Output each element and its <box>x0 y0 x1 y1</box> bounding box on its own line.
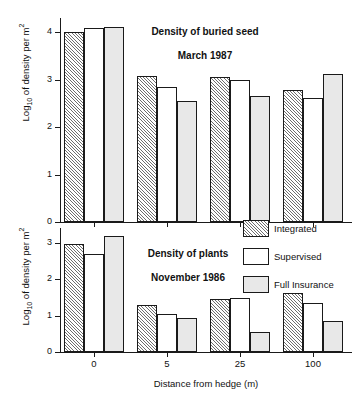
x-tick-label: 5 <box>147 359 187 369</box>
y-axis-plants <box>60 228 61 352</box>
y-axis-label-buried-seed: Log10 of density per m2 <box>17 3 34 143</box>
bar-supervised-100m <box>303 303 323 352</box>
panel-buried-seed: Density of buried seed March 1987 01234 … <box>0 0 362 230</box>
bar-supervised-100m <box>303 98 323 222</box>
bar-supervised-5m <box>157 87 177 222</box>
legend-swatch-full-insurance <box>243 276 269 293</box>
x-tick-label: 25 <box>220 359 260 369</box>
legend-swatch-supervised <box>243 248 269 265</box>
x-tick <box>313 352 314 357</box>
legend-item-supervised: Supervised <box>243 247 361 269</box>
bar-supervised-0m <box>84 254 104 352</box>
x-tick <box>240 352 241 357</box>
bar-integrated-0m <box>64 244 84 352</box>
legend-label-full-insurance: Full Insurance <box>274 279 334 290</box>
y-tick <box>55 243 60 244</box>
y-tick <box>55 279 60 280</box>
legend-swatch-integrated <box>243 220 269 237</box>
bar-full-insurance-0m <box>104 236 124 352</box>
bar-full-insurance-100m <box>323 321 343 352</box>
legend-item-integrated: Integrated <box>243 219 361 241</box>
y-tick-label: 1 <box>30 170 52 179</box>
y-axis-label-plants: Log10 of density per m2 <box>17 207 34 347</box>
plot-area-buried-seed: 01234 0525100 <box>60 18 352 222</box>
bar-full-insurance-5m <box>177 318 197 352</box>
y-tick <box>55 32 60 33</box>
legend-item-full-insurance: Full Insurance <box>243 275 361 297</box>
x-tick-label: 0 <box>74 359 114 369</box>
figure-two-panel-bar-charts: Density of buried seed March 1987 01234 … <box>0 0 362 398</box>
legend-label-integrated: Integrated <box>274 223 317 234</box>
bar-integrated-25m <box>210 299 230 352</box>
x-axis-plants <box>60 352 352 353</box>
bar-supervised-5m <box>157 314 177 352</box>
y-axis-buried-seed <box>60 18 61 222</box>
y-tick <box>55 175 60 176</box>
bar-integrated-5m <box>137 76 157 222</box>
bar-full-insurance-100m <box>323 74 343 222</box>
bar-full-insurance-5m <box>177 101 197 222</box>
legend: IntegratedSupervisedFull Insurance <box>243 219 361 303</box>
x-tick <box>94 352 95 357</box>
bar-integrated-100m <box>283 90 303 222</box>
y-tick <box>55 80 60 81</box>
bar-full-insurance-25m <box>250 332 270 352</box>
bar-integrated-5m <box>137 305 157 352</box>
y-tick <box>55 316 60 317</box>
x-tick-label: 100 <box>293 359 333 369</box>
x-tick <box>167 352 168 357</box>
bar-full-insurance-0m <box>104 27 124 222</box>
bar-supervised-25m <box>230 80 250 222</box>
bar-integrated-25m <box>210 77 230 222</box>
bar-full-insurance-25m <box>250 96 270 222</box>
legend-label-supervised: Supervised <box>274 251 322 262</box>
bar-integrated-0m <box>64 32 84 222</box>
y-tick-label: 0 <box>30 347 52 356</box>
y-tick <box>55 127 60 128</box>
bar-supervised-25m <box>230 298 250 352</box>
y-tick <box>55 352 60 353</box>
x-axis-label: Distance from hedge (m) <box>60 378 352 389</box>
bar-supervised-0m <box>84 28 104 223</box>
